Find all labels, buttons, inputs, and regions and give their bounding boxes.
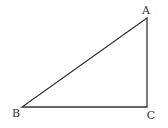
vertex-label-c: C — [147, 109, 155, 122]
vertex-label-a: A — [141, 4, 151, 17]
triangle-abc — [22, 18, 147, 107]
vertex-label-b: B — [12, 107, 20, 120]
triangle-diagram: A B C — [0, 0, 168, 128]
